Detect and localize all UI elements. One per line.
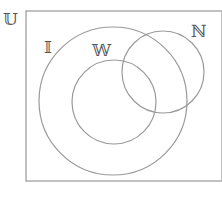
set-n-circle: [122, 31, 204, 113]
venn-diagram: [0, 0, 222, 197]
set-w-label: 𝕎: [92, 42, 111, 59]
set-i-circle: [39, 27, 187, 175]
set-i-label: 𝕀: [44, 39, 52, 56]
set-w-circle: [72, 60, 156, 144]
universe-label: 𝕌: [3, 11, 18, 28]
set-n-label: ℕ: [191, 23, 207, 40]
